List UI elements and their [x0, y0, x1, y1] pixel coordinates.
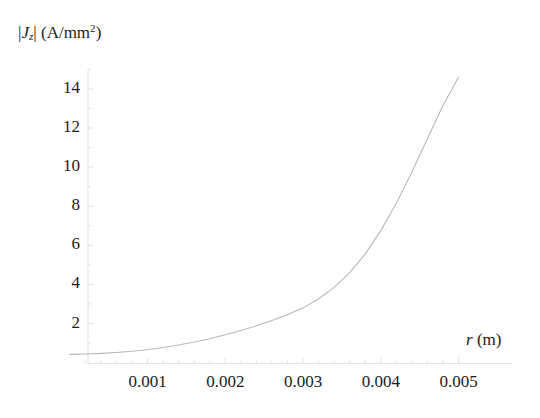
data-series-line: [70, 77, 459, 354]
y-tick-label: 14: [40, 78, 80, 98]
y-tick-label: 8: [40, 195, 80, 215]
plot-area: [0, 0, 540, 418]
axes-group: [88, 70, 512, 364]
x-tick-label: 0.002: [190, 372, 260, 392]
x-tick-label: 0.005: [424, 372, 494, 392]
x-tick-label: 0.004: [346, 372, 416, 392]
y-tick-label: 6: [40, 234, 80, 254]
y-tick-label: 4: [40, 273, 80, 293]
y-tick-label: 10: [40, 156, 80, 176]
y-tick-label: 2: [40, 313, 80, 333]
tick-marks-group: [85, 69, 458, 363]
figure-panel: |Jz| (A/mm2) r (m) 2468101214 0.0010.002…: [0, 0, 540, 418]
x-tick-label: 0.003: [268, 372, 338, 392]
y-tick-label: 12: [40, 117, 80, 137]
x-tick-label: 0.001: [113, 372, 183, 392]
